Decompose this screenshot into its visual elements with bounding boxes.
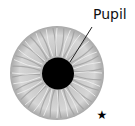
pupil-label: Pupil [93, 7, 127, 21]
star-marker: ★ [97, 108, 108, 122]
pupil [42, 58, 74, 90]
